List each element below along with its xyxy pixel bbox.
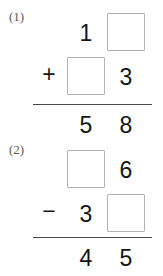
problem-2-row-2-ones-blank-box[interactable] (107, 194, 145, 232)
problem-2-row-2-tens-digit: 3 (66, 194, 106, 234)
problem-1-row-2-ones-digit: 3 (106, 57, 146, 97)
problem-2-answer-ones-digit: 5 (106, 238, 146, 276)
arithmetic-worksheet: (1) 1 + 3 5 8 (2) 6 − 3 4 5 (0, 0, 163, 276)
problem-2-answer-tens-digit: 4 (66, 238, 106, 276)
problem-1-row-1-ones-blank-box[interactable] (107, 13, 145, 51)
problem-1-row-2-tens-blank-box[interactable] (67, 57, 105, 95)
problem-1-label: (1) (9, 9, 24, 25)
problem-2-row-1-tens-blank-box[interactable] (67, 150, 105, 188)
problem-1: (1) 1 + 3 5 8 (0, 0, 163, 138)
problem-2-label: (2) (9, 142, 24, 158)
problem-1-row-1-tens-digit: 1 (66, 13, 106, 53)
problem-2-row-1-ones-digit: 6 (106, 150, 146, 190)
problem-2: (2) 6 − 3 4 5 (0, 133, 163, 276)
problem-1-operator: + (36, 57, 62, 91)
problem-2-operator: − (36, 194, 62, 228)
